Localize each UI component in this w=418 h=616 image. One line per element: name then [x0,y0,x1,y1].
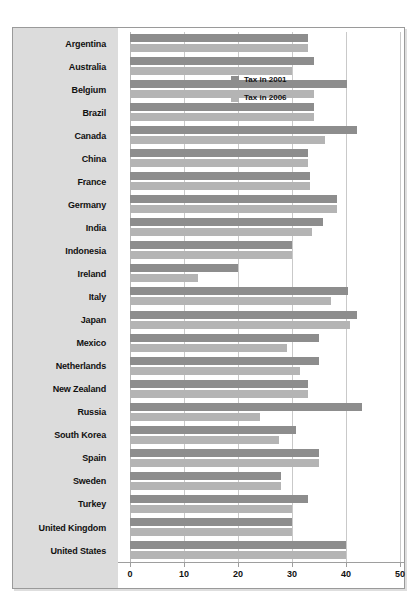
legend-label: Tax in 2001 [244,75,287,84]
bar-2006 [130,344,287,352]
bar-2006 [130,459,319,467]
bar-group [118,516,404,539]
bar-2001 [130,218,323,226]
bar-group [118,193,404,216]
x-tick [292,562,293,567]
bar-2006 [130,44,308,52]
bar-group [118,447,404,470]
chart-legend: Tax in 2001Tax in 2006 [231,75,303,111]
bar-group [118,470,404,493]
x-tick [346,562,347,567]
category-label: Belgium [13,78,112,101]
top-faint-strip [0,0,418,14]
x-tick-label: 20 [233,569,243,579]
category-label-list: ArgentinaAustraliaBelgiumBrazilCanadaChi… [13,32,112,562]
bar-2006 [130,274,198,282]
bar-2006 [130,482,281,490]
category-label: New Zealand [13,378,112,401]
bar-group [118,285,404,308]
bar-2006 [130,113,314,121]
category-label: Argentina [13,32,112,55]
category-label-panel: ArgentinaAustraliaBelgiumBrazilCanadaChi… [13,28,118,588]
bar-group [118,355,404,378]
bar-2001 [130,311,357,319]
bar-2001 [130,241,292,249]
bar-2006 [130,67,292,75]
bar-2001 [130,264,238,272]
bar-2001 [130,57,314,65]
x-tick [238,562,239,567]
legend-label: Tax in 2006 [244,93,287,102]
x-tick [184,562,185,567]
plot-inner [118,32,404,562]
bar-2001 [130,426,296,434]
bar-group [118,124,404,147]
bar-2006 [130,136,325,144]
category-label: India [13,216,112,239]
bar-2006 [130,321,350,329]
bar-2001 [130,357,319,365]
bar-group [118,262,404,285]
x-tick-label: 40 [341,569,351,579]
bar-2006 [130,159,308,167]
plot-area [118,28,404,588]
bar-2001 [130,287,348,295]
bar-group [118,424,404,447]
x-tick-label: 30 [287,569,297,579]
x-tick-label: 50 [395,569,405,579]
x-tick [130,562,131,567]
bar-2001 [130,403,362,411]
x-tick [400,562,401,567]
category-label: Mexico [13,332,112,355]
bar-2006 [130,505,292,513]
category-label: United Kingdom [13,516,112,539]
bar-2001 [130,126,357,134]
legend-item: Tax in 2001 [231,75,303,84]
bar-group [118,401,404,424]
category-label: Russia [13,401,112,424]
category-label: United States [13,539,112,562]
bar-2001 [130,195,337,203]
bar-2001 [130,380,308,388]
x-tick-label: 0 [127,569,132,579]
x-axis-line [118,562,404,563]
category-label: Turkey [13,493,112,516]
bar-2006 [130,528,292,536]
category-label: Spain [13,447,112,470]
category-label: South Korea [13,424,112,447]
category-label: Japan [13,309,112,332]
bar-2001 [130,449,319,457]
bar-group [118,32,404,55]
legend-swatch-icon [231,76,239,84]
category-label: Ireland [13,262,112,285]
bar-2001 [130,334,319,342]
bar-2006 [130,205,337,213]
bar-group [118,147,404,170]
category-label: Italy [13,286,112,309]
legend-item: Tax in 2006 [231,93,303,102]
category-label: Netherlands [13,355,112,378]
bar-2006 [130,182,310,190]
category-label: Canada [13,124,112,147]
bar-2006 [130,297,331,305]
category-label: Germany [13,193,112,216]
legend-swatch-icon [231,94,239,102]
bar-2001 [130,472,281,480]
bar-2006 [130,413,260,421]
x-tick-label: 10 [179,569,189,579]
chart-frame: ArgentinaAustraliaBelgiumBrazilCanadaChi… [12,27,405,589]
bar-2006 [130,367,300,375]
bar-group [118,378,404,401]
bar-group [118,309,404,332]
bar-group [118,239,404,262]
bar-2001 [130,34,308,42]
bar-group [118,539,404,562]
category-label: Brazil [13,101,112,124]
bar-2001 [130,518,292,526]
bar-2001 [130,172,310,180]
bar-2006 [130,228,312,236]
category-label: France [13,170,112,193]
category-label: Sweden [13,470,112,493]
bar-group [118,170,404,193]
bar-group [118,332,404,355]
